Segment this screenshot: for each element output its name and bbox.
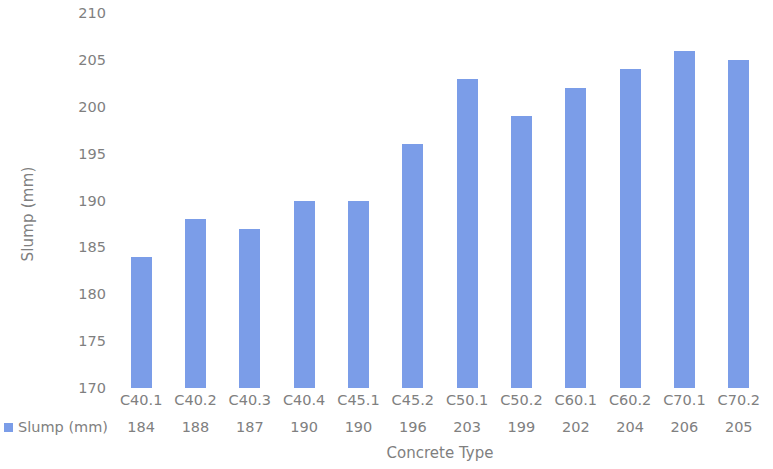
- data-value-C50.2: 199: [494, 415, 548, 439]
- bar-C45.1[interactable]: [348, 201, 369, 389]
- y-axis-tick-170: 170: [58, 380, 106, 396]
- data-value-C40.2: 188: [168, 415, 222, 439]
- y-axis-tick-205: 205: [58, 52, 106, 68]
- bar-C40.1[interactable]: [131, 257, 152, 388]
- bar-slot: [223, 13, 277, 388]
- bar-C70.2[interactable]: [728, 60, 749, 388]
- x-axis-label-C40.4: C40.4: [277, 390, 331, 410]
- bar-C40.4[interactable]: [294, 201, 315, 389]
- bar-slot: [494, 13, 548, 388]
- data-value-C70.2: 205: [712, 415, 766, 439]
- data-table-values: 184188187190190196203199202204206205: [114, 415, 766, 439]
- legend-and-data-table-row: Slump (mm) 18418818719019019620319920220…: [0, 415, 773, 439]
- bar-slot: [277, 13, 331, 388]
- y-axis-tick-175: 175: [58, 333, 106, 349]
- bar-C60.2[interactable]: [620, 69, 641, 388]
- x-axis-title: Concrete Type: [114, 444, 766, 462]
- x-axis-label-C45.1: C45.1: [331, 390, 385, 410]
- x-axis-label-C70.2: C70.2: [712, 390, 766, 410]
- x-axis-category-labels: C40.1C40.2C40.3C40.4C45.1C45.2C50.1C50.2…: [114, 390, 766, 410]
- legend-label: Slump (mm): [18, 419, 108, 435]
- data-value-C60.1: 202: [549, 415, 603, 439]
- data-value-C45.1: 190: [331, 415, 385, 439]
- bar-C40.2[interactable]: [185, 219, 206, 388]
- bar-C50.2[interactable]: [511, 116, 532, 388]
- legend-swatch-icon: [4, 423, 13, 432]
- bar-C45.2[interactable]: [402, 144, 423, 388]
- legend-slump: Slump (mm): [0, 419, 114, 435]
- x-axis-label-C40.2: C40.2: [168, 390, 222, 410]
- x-axis-label-C70.1: C70.1: [657, 390, 711, 410]
- x-axis-label-C40.1: C40.1: [114, 390, 168, 410]
- bar-slot: [114, 13, 168, 388]
- bar-slot: [657, 13, 711, 388]
- x-axis-label-C60.2: C60.2: [603, 390, 657, 410]
- y-axis-tick-195: 195: [58, 146, 106, 162]
- x-axis-label-C45.2: C45.2: [386, 390, 440, 410]
- y-axis-tick-185: 185: [58, 239, 106, 255]
- bar-slot: [331, 13, 385, 388]
- x-axis-label-C40.3: C40.3: [223, 390, 277, 410]
- bar-C50.1[interactable]: [457, 79, 478, 388]
- y-axis-tick-labels: 210205200195190185180175170: [58, 0, 106, 400]
- x-axis-label-C60.1: C60.1: [549, 390, 603, 410]
- x-axis-label-C50.1: C50.1: [440, 390, 494, 410]
- y-axis-tick-200: 200: [58, 99, 106, 115]
- x-axis-label-C50.2: C50.2: [494, 390, 548, 410]
- data-value-C40.1: 184: [114, 415, 168, 439]
- bar-C70.1[interactable]: [674, 51, 695, 389]
- bar-C60.1[interactable]: [565, 88, 586, 388]
- y-axis-tick-190: 190: [58, 193, 106, 209]
- data-value-C45.2: 196: [386, 415, 440, 439]
- bar-slot: [168, 13, 222, 388]
- bar-series-slump: [114, 13, 766, 388]
- bar-slot: [712, 13, 766, 388]
- plot-area: [114, 13, 766, 388]
- bar-slot: [603, 13, 657, 388]
- bar-C40.3[interactable]: [239, 229, 260, 388]
- bar-slot: [440, 13, 494, 388]
- y-axis-title: Slump (mm): [19, 114, 37, 314]
- data-value-C40.4: 190: [277, 415, 331, 439]
- y-axis-tick-210: 210: [58, 5, 106, 21]
- data-value-C70.1: 206: [657, 415, 711, 439]
- data-value-C40.3: 187: [223, 415, 277, 439]
- bar-slot: [386, 13, 440, 388]
- bar-chart: Slump (mm) 210205200195190185180175170 C…: [0, 0, 773, 469]
- y-axis-tick-180: 180: [58, 286, 106, 302]
- bar-slot: [549, 13, 603, 388]
- data-value-C50.1: 203: [440, 415, 494, 439]
- data-value-C60.2: 204: [603, 415, 657, 439]
